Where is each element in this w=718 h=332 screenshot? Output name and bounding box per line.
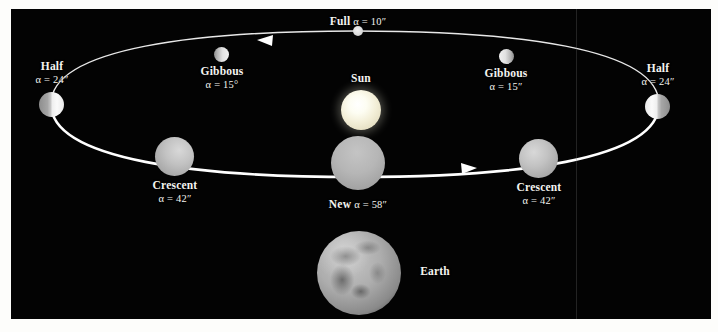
venus-disc-new [331, 136, 385, 190]
sun-label: Sun [336, 72, 386, 86]
venus-label-half-right-name: Half [620, 62, 696, 76]
earth-label: Earth [407, 265, 463, 279]
venus-label-half-right-angle: α = 24″ [620, 76, 696, 88]
venus-label-gibbous-left-angle: α = 15° [179, 79, 265, 91]
orbit-direction-arrow-top [257, 35, 273, 46]
venus-label-crescent-left-angle: α = 42″ [133, 193, 217, 205]
venus-label-full-angle: α = 10″ [353, 16, 386, 27]
venus-label-crescent-right-angle: α = 42″ [497, 195, 581, 207]
venus-disc-half-left [39, 92, 64, 117]
plate-seam-divider [576, 9, 577, 319]
venus-label-half-right: Half α = 24″ [620, 62, 696, 88]
venus-label-gibbous-right-name: Gibbous [463, 67, 549, 81]
venus-disc-half-right [645, 94, 670, 119]
venus-disc-gibbous-left [214, 47, 229, 62]
sun-label-text: Sun [336, 72, 386, 86]
venus-label-gibbous-right-angle: α = 15″ [463, 81, 549, 93]
venus-disc-crescent-right [519, 139, 558, 178]
sun-disc [341, 90, 381, 130]
venus-label-gibbous-left-name: Gibbous [179, 65, 265, 79]
venus-disc-gibbous-right [499, 49, 514, 64]
earth-globe [317, 231, 401, 315]
venus-disc-crescent-left [155, 137, 194, 176]
venus-label-half-left-angle: α = 24″ [14, 74, 90, 86]
venus-label-crescent-left: Crescent α = 42″ [133, 179, 217, 205]
venus-label-half-left: Half α = 24″ [14, 60, 90, 86]
earth-label-text: Earth [407, 265, 463, 279]
venus-label-crescent-right: Crescent α = 42″ [497, 181, 581, 207]
venus-label-new-name: New [329, 198, 351, 210]
venus-label-new: Newα = 58″ [308, 194, 408, 213]
venus-label-gibbous-right: Gibbous α = 15″ [463, 67, 549, 93]
venus-label-gibbous-left: Gibbous α = 15° [179, 65, 265, 91]
venus-label-half-left-name: Half [14, 60, 90, 74]
venus-label-crescent-left-name: Crescent [133, 179, 217, 193]
night-sky-plate: Sun Fullα = 10″ Gibbous α = 15° Gibbous … [11, 9, 711, 319]
venus-label-full: Fullα = 10″ [308, 11, 408, 30]
venus-label-new-angle: α = 58″ [354, 199, 387, 210]
venus-phases-figure: Sun Fullα = 10″ Gibbous α = 15° Gibbous … [0, 0, 718, 332]
venus-label-crescent-right-name: Crescent [497, 181, 581, 195]
venus-label-full-name: Full [330, 15, 351, 27]
